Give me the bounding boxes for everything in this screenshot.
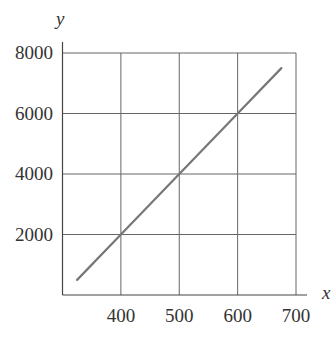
- x-tick-labels: 400500600700: [107, 305, 311, 326]
- y-tick-label: 6000: [15, 103, 53, 124]
- x-axis-label: x: [321, 282, 331, 303]
- line-chart: 400500600700 2000400060008000 x y: [0, 0, 336, 351]
- y-tick-label: 4000: [15, 163, 53, 184]
- y-axis-label: y: [54, 8, 65, 29]
- y-tick-label: 8000: [15, 42, 53, 63]
- x-tick-label: 400: [107, 305, 136, 326]
- y-tick-labels: 2000400060008000: [15, 42, 53, 245]
- y-tick-label: 2000: [15, 224, 53, 245]
- x-tick-label: 700: [282, 305, 311, 326]
- x-tick-label: 500: [165, 305, 194, 326]
- x-tick-label: 600: [223, 305, 252, 326]
